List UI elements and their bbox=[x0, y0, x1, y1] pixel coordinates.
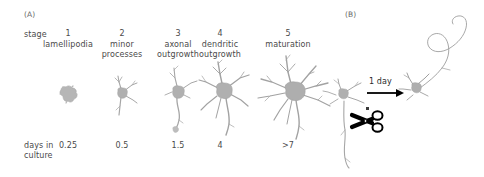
neuron-stage2-minor-processes-icon bbox=[104, 70, 144, 118]
days-value-1: 0.25 bbox=[48, 141, 88, 151]
days-value-4: 4 bbox=[200, 141, 240, 151]
stage-number-3: 3 bbox=[158, 29, 198, 39]
neuron-after-regeneration-icon bbox=[398, 12, 482, 104]
stage-name-5-line1: maturation bbox=[257, 40, 319, 50]
stage-name-2-line1: minor bbox=[91, 40, 153, 50]
regeneration-arrow-label: 1 day bbox=[369, 77, 392, 87]
stage-row-label: stage bbox=[24, 30, 47, 40]
neuron-stage4-dendritic-outgrowth-icon bbox=[196, 58, 254, 138]
days-value-5: >7 bbox=[268, 141, 308, 151]
panel-a-label: (A) bbox=[24, 10, 35, 20]
neuron-development-figure: (A) stage 1 2 3 4 5 lamellipodia minor a… bbox=[0, 0, 484, 177]
stage-name-1-line1: lamellipodia bbox=[37, 40, 99, 50]
stage-number-1: 1 bbox=[48, 29, 88, 39]
stage-name-4-line1: dendritic bbox=[189, 40, 251, 50]
stage-name-2-line2: processes bbox=[91, 50, 153, 60]
days-value-2: 0.5 bbox=[102, 141, 142, 151]
days-row-label-line2: culture bbox=[24, 151, 53, 161]
panel-b-label: (B) bbox=[345, 10, 356, 20]
neuron-stage1-lamellipodia-icon bbox=[56, 82, 82, 108]
stage-number-4: 4 bbox=[200, 29, 240, 39]
days-value-3: 1.5 bbox=[158, 141, 198, 151]
stage-number-2: 2 bbox=[102, 29, 142, 39]
scissors-icon bbox=[350, 107, 388, 135]
stage-number-5: 5 bbox=[268, 29, 308, 39]
